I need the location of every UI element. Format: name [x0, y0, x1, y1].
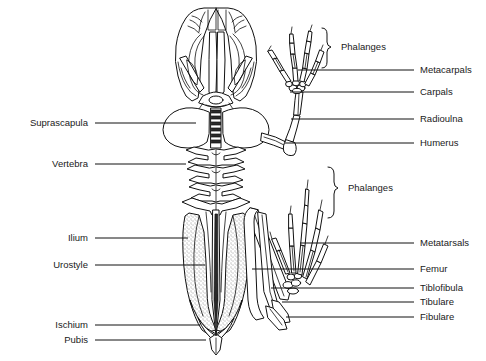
pectoral-girdle [163, 108, 292, 150]
label-phalanges-forelimb: Phalanges [341, 41, 386, 52]
label-pubis: Pubis [64, 334, 88, 345]
bracket-phalanges-hindlimb [328, 167, 338, 218]
phalanges-digit-2 [290, 27, 297, 68]
label-vertebra: Vertebra [52, 158, 89, 169]
ilium-left [183, 213, 216, 332]
label-ischium: Ischium [55, 319, 88, 330]
left-annotations: Suprascapula Vertebra Ilium Urostyle Isc… [30, 117, 206, 345]
skull [175, 8, 256, 109]
label-suprascapula: Suprascapula [30, 117, 89, 128]
label-carpals: Carpals [420, 86, 453, 97]
vertebral-column [182, 147, 250, 215]
bracket-annotations: Phalanges Phalanges [322, 28, 393, 218]
frog-skeleton-diagram: Suprascapula Vertebra Ilium Urostyle Isc… [0, 0, 486, 361]
label-femur: Femur [420, 263, 447, 274]
label-tiblofibula: Tiblofibula [420, 282, 464, 293]
phalanges-digit-3 [303, 25, 312, 69]
suprascapula-right [223, 108, 269, 148]
label-humerus: Humerus [420, 137, 459, 148]
pelvis [183, 210, 250, 355]
suprascapula-left [163, 108, 209, 148]
toe-phalanges-5 [317, 236, 328, 263]
toe-phalanges-3 [301, 180, 309, 246]
toe-phalanges-4 [311, 200, 323, 252]
label-phalanges-hindlimb: Phalanges [348, 182, 393, 193]
label-radioulna: Radioulna [420, 113, 463, 124]
label-tibulare: Tibulare [420, 296, 454, 307]
label-ilium: Ilium [68, 232, 88, 243]
skeleton-illustration: Suprascapula Vertebra Ilium Urostyle Isc… [0, 0, 486, 361]
bracket-phalanges-forelimb [322, 28, 331, 68]
label-metacarpals: Metacarpals [420, 64, 472, 75]
forelimb [268, 25, 324, 156]
phalanges-digit-1 [268, 46, 284, 71]
toe-phalanges-2 [289, 206, 294, 246]
hindlimb [244, 180, 328, 330]
label-urostyle: Urostyle [53, 259, 88, 270]
label-metatarsals: Metatarsals [420, 237, 469, 248]
label-fibulare: Fibulare [420, 311, 454, 322]
